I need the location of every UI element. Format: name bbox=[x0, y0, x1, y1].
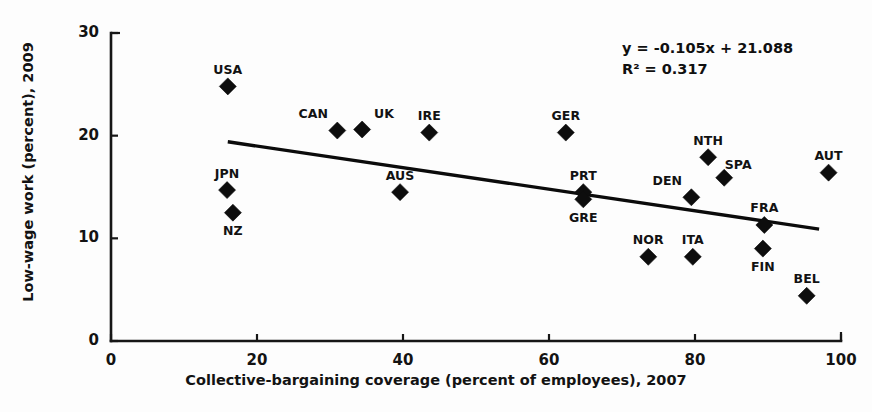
scatter-chart-figure: Low-wage work (percent), 2009 Collective… bbox=[0, 0, 872, 412]
data-point-marker[interactable] bbox=[421, 124, 438, 141]
data-point-label: GER bbox=[536, 108, 596, 123]
data-point-marker[interactable] bbox=[354, 121, 371, 138]
data-point-label: IRE bbox=[399, 108, 459, 123]
data-point-label: NTH bbox=[678, 133, 738, 148]
data-point-label: GRE bbox=[553, 210, 613, 225]
y-axis-tick-label: 0 bbox=[55, 331, 99, 349]
x-axis-tick-label: 80 bbox=[665, 351, 725, 369]
data-point-label: JPN bbox=[197, 166, 257, 181]
data-point-marker[interactable] bbox=[224, 204, 241, 221]
trendline-group bbox=[228, 142, 819, 229]
data-point-marker[interactable] bbox=[219, 78, 236, 95]
data-point-marker[interactable] bbox=[820, 164, 837, 181]
data-point-marker[interactable] bbox=[798, 287, 815, 304]
y-axis-tick-label: 10 bbox=[55, 228, 99, 246]
x-axis-tick-label: 40 bbox=[373, 351, 433, 369]
x-axis-tick-label: 100 bbox=[811, 351, 871, 369]
data-point-marker[interactable] bbox=[683, 189, 700, 206]
x-axis-tick-label: 60 bbox=[519, 351, 579, 369]
data-point-label: DEN bbox=[637, 173, 697, 188]
data-point-marker[interactable] bbox=[640, 248, 657, 265]
data-point-label: BEL bbox=[777, 271, 837, 286]
data-point-marker[interactable] bbox=[557, 124, 574, 141]
x-axis-tick-label: 20 bbox=[227, 351, 287, 369]
data-point-label: ITA bbox=[663, 232, 723, 247]
x-axis-tick-label: 0 bbox=[81, 351, 141, 369]
data-point-marker[interactable] bbox=[684, 248, 701, 265]
data-point-label: AUT bbox=[799, 148, 859, 163]
trendline-equation-text: y = -0.105x + 21.088 bbox=[622, 38, 793, 59]
data-point-marker[interactable] bbox=[754, 240, 771, 257]
data-point-marker[interactable] bbox=[219, 182, 236, 199]
data-point-label: CAN bbox=[283, 106, 343, 121]
data-point-label: AUS bbox=[370, 168, 430, 183]
data-point-label: NZ bbox=[203, 223, 263, 238]
y-axis-label-wrapper: Low-wage work (percent), 2009 bbox=[20, 32, 44, 312]
data-point-marker[interactable] bbox=[392, 184, 409, 201]
x-axis-label: Collective-bargaining coverage (percent … bbox=[0, 372, 872, 388]
y-axis-label: Low-wage work (percent), 2009 bbox=[20, 32, 36, 312]
y-axis-tick-label: 30 bbox=[55, 23, 99, 41]
y-axis-tick-label: 20 bbox=[55, 126, 99, 144]
data-point-label: FRA bbox=[734, 200, 794, 215]
data-point-label: PRT bbox=[553, 168, 613, 183]
trend-line bbox=[228, 142, 819, 229]
data-point-label: USA bbox=[198, 62, 258, 77]
trendline-r2-text: R² = 0.317 bbox=[622, 59, 793, 80]
data-point-label: SPA bbox=[708, 157, 768, 172]
trendline-annotation: y = -0.105x + 21.088 R² = 0.317 bbox=[622, 38, 793, 80]
data-point-marker[interactable] bbox=[329, 122, 346, 139]
